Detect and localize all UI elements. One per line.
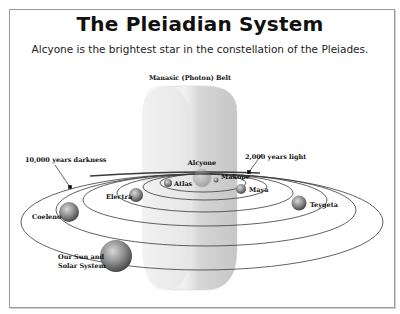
light-label: 2,000 years light — [245, 153, 306, 161]
photon-belt — [143, 86, 237, 290]
maya-label: Maya — [249, 186, 269, 194]
pleiadian-diagram: Manasic (Photon) Belt 10,000 years darkn… — [0, 0, 400, 314]
sun-label-line1: Our Sun and — [58, 253, 104, 261]
teygeta-star — [292, 196, 307, 211]
alcyone-label: Alcyone — [187, 159, 216, 167]
electra-label: Electra — [106, 193, 133, 201]
atlas-label: Atlas — [173, 180, 193, 188]
makope-label: Makope — [221, 173, 250, 181]
darkness-label: 10,000 years darkness — [25, 156, 107, 164]
maya-star — [236, 184, 246, 194]
atlas-star — [164, 179, 172, 187]
coeleno-label: Coeleno — [32, 213, 62, 221]
coeleno-star — [59, 202, 79, 222]
makope-star — [214, 178, 219, 183]
alcyone-star — [193, 169, 211, 187]
teygeta-label: Teygeta — [310, 201, 339, 209]
sun-label-line2: Solar System — [58, 262, 106, 270]
belt-label: Manasic (Photon) Belt — [149, 74, 231, 82]
